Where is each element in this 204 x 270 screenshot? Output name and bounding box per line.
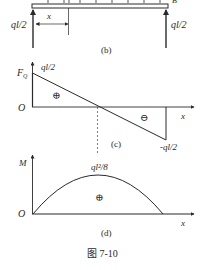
moment-axis-label: M bbox=[18, 158, 27, 168]
shear-axis-label: FQ bbox=[16, 67, 28, 79]
shear-max-label: ql/2 bbox=[41, 62, 56, 72]
negative-sign: ⊖ bbox=[140, 112, 148, 123]
moment-positive-sign: ⊕ bbox=[95, 192, 103, 203]
beam-panel: ql/2 ql/2 B x (b) bbox=[11, 0, 187, 55]
shear-min-label: -ql/2 bbox=[160, 142, 177, 152]
panel-d-label: (d) bbox=[101, 228, 112, 238]
beam bbox=[32, 4, 168, 8]
distributed-load-arrows bbox=[48, 0, 160, 3]
figure-canvas: ql/2 ql/2 B x (b) FQ ql/2 O x ⊕ ⊖ -ql/2 … bbox=[0, 0, 204, 270]
moment-origin-label: O bbox=[18, 208, 25, 219]
shear-x-label: x bbox=[180, 111, 185, 121]
moment-peak-label: ql²/8 bbox=[91, 162, 108, 172]
shear-line bbox=[33, 73, 167, 140]
left-reaction-label: ql/2 bbox=[11, 19, 27, 30]
dimension-label-x: x bbox=[46, 11, 51, 21]
end-b-label: B bbox=[172, 0, 177, 5]
shear-origin-label: O bbox=[18, 102, 25, 113]
panel-b-label: (b) bbox=[101, 45, 112, 55]
panel-c-label: (c) bbox=[111, 139, 121, 149]
positive-sign: ⊕ bbox=[52, 90, 60, 101]
moment-x-label: x bbox=[180, 218, 185, 228]
figure-caption: 图 7-10 bbox=[87, 248, 118, 259]
right-reaction-label: ql/2 bbox=[171, 19, 187, 30]
shear-diagram: FQ ql/2 O x ⊕ ⊖ -ql/2 (c) bbox=[16, 62, 194, 155]
moment-diagram: M ql²/8 ⊕ O x (d) bbox=[18, 155, 194, 238]
